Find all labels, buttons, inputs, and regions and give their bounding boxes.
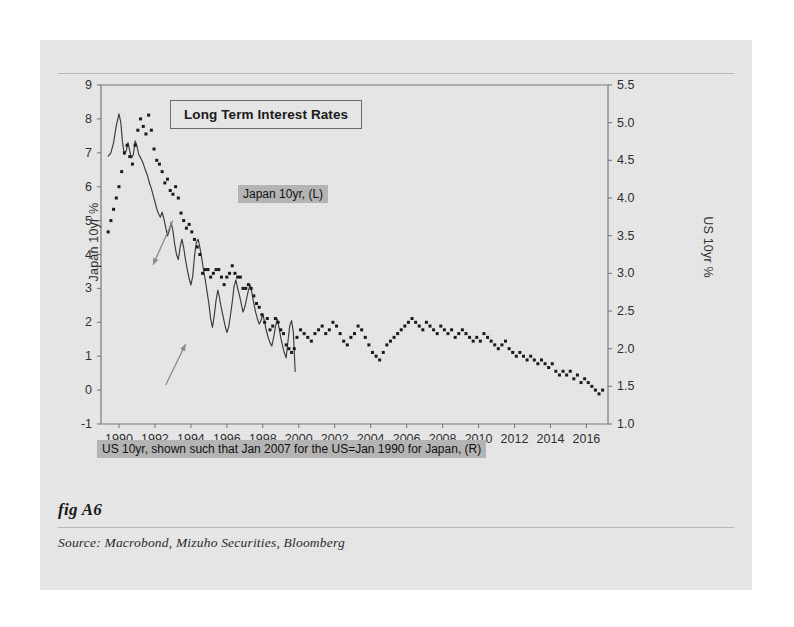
y-axis-tick-label: 2 bbox=[85, 315, 92, 329]
y2-axis-tick-label: 5.5 bbox=[617, 78, 634, 92]
series-marker bbox=[139, 117, 142, 120]
series-marker bbox=[443, 328, 446, 331]
us-series-callout: US 10yr, shown such that Jan 2007 for th… bbox=[97, 440, 486, 458]
series-marker bbox=[244, 287, 247, 290]
series-line-japan bbox=[108, 114, 295, 372]
series-marker bbox=[547, 366, 550, 369]
series-marker bbox=[544, 362, 547, 365]
series-marker bbox=[450, 328, 453, 331]
series-marker bbox=[163, 181, 166, 184]
series-marker bbox=[407, 321, 410, 324]
series-marker bbox=[293, 347, 296, 350]
series-marker bbox=[174, 185, 177, 188]
chart-canvas: -101234567891.01.52.02.53.03.54.04.55.05… bbox=[40, 40, 752, 500]
series-marker bbox=[303, 332, 306, 335]
series-marker bbox=[206, 268, 209, 271]
series-marker bbox=[594, 389, 597, 392]
y2-axis-tick-label: 2.0 bbox=[617, 342, 634, 356]
series-marker bbox=[378, 358, 381, 361]
series-marker bbox=[500, 343, 503, 346]
series-marker bbox=[353, 332, 356, 335]
series-marker bbox=[290, 351, 293, 354]
series-marker bbox=[274, 317, 277, 320]
y2-axis-tick-label: 5.0 bbox=[617, 116, 634, 130]
series-marker bbox=[228, 272, 231, 275]
series-marker bbox=[134, 144, 137, 147]
series-marker bbox=[526, 358, 529, 361]
series-marker bbox=[324, 332, 327, 335]
chart-title: Long Term Interest Rates bbox=[170, 100, 362, 129]
series-marker bbox=[522, 355, 525, 358]
series-marker bbox=[493, 343, 496, 346]
series-marker bbox=[299, 328, 302, 331]
series-marker bbox=[393, 336, 396, 339]
series-marker bbox=[339, 332, 342, 335]
series-marker bbox=[115, 197, 118, 200]
series-marker bbox=[247, 283, 250, 286]
series-marker bbox=[486, 336, 489, 339]
series-marker bbox=[400, 328, 403, 331]
series-marker bbox=[457, 332, 460, 335]
figure-label: fig A6 bbox=[58, 500, 102, 520]
figure-divider-rule bbox=[58, 527, 734, 528]
series-marker bbox=[439, 325, 442, 328]
series-marker bbox=[193, 238, 196, 241]
series-marker bbox=[277, 321, 280, 324]
y2-axis-tick-label: 1.0 bbox=[617, 417, 634, 431]
series-marker bbox=[158, 163, 161, 166]
series-marker bbox=[217, 268, 220, 271]
series-marker bbox=[598, 392, 601, 395]
series-marker bbox=[279, 328, 282, 331]
series-marker bbox=[335, 325, 338, 328]
series-marker bbox=[212, 272, 215, 275]
series-marker bbox=[580, 381, 583, 384]
series-marker bbox=[403, 325, 406, 328]
series-marker bbox=[131, 163, 134, 166]
left-axis-title: Japan 10yr % bbox=[87, 182, 101, 302]
series-marker bbox=[220, 276, 223, 279]
series-marker bbox=[479, 340, 482, 343]
series-marker bbox=[497, 347, 500, 350]
series-marker bbox=[295, 336, 298, 339]
series-marker bbox=[209, 276, 212, 279]
series-marker bbox=[342, 340, 345, 343]
series-marker bbox=[223, 283, 226, 286]
series-marker bbox=[120, 170, 123, 173]
series-marker bbox=[142, 125, 145, 128]
series-marker bbox=[533, 358, 536, 361]
series-marker bbox=[239, 276, 242, 279]
series-marker bbox=[429, 325, 432, 328]
series-marker bbox=[150, 129, 153, 132]
japan-callout-arrow bbox=[153, 221, 173, 265]
series-marker bbox=[282, 332, 285, 335]
series-marker bbox=[590, 385, 593, 388]
series-marker bbox=[346, 343, 349, 346]
series-marker bbox=[551, 362, 554, 365]
y-axis-tick-label: 8 bbox=[85, 112, 92, 126]
series-marker bbox=[171, 193, 174, 196]
series-marker bbox=[147, 114, 150, 117]
series-marker bbox=[233, 272, 236, 275]
x-axis-tick-label: 2014 bbox=[537, 432, 565, 446]
series-marker bbox=[190, 230, 193, 233]
series-marker bbox=[490, 340, 493, 343]
series-marker bbox=[204, 268, 207, 271]
series-marker bbox=[360, 328, 363, 331]
series-marker bbox=[285, 343, 288, 346]
series-marker bbox=[371, 351, 374, 354]
series-marker bbox=[418, 325, 421, 328]
series-marker bbox=[255, 302, 258, 305]
y-axis-tick-label: 7 bbox=[85, 146, 92, 160]
series-marker bbox=[252, 294, 255, 297]
y2-axis-tick-label: 1.5 bbox=[617, 379, 634, 393]
series-marker bbox=[396, 332, 399, 335]
series-marker bbox=[109, 219, 112, 222]
x-axis-tick-label: 2016 bbox=[573, 432, 601, 446]
series-marker bbox=[565, 374, 568, 377]
series-marker bbox=[328, 328, 331, 331]
series-marker bbox=[188, 223, 191, 226]
series-marker bbox=[177, 197, 180, 200]
series-marker bbox=[236, 276, 239, 279]
series-marker bbox=[529, 355, 532, 358]
series-marker bbox=[432, 328, 435, 331]
